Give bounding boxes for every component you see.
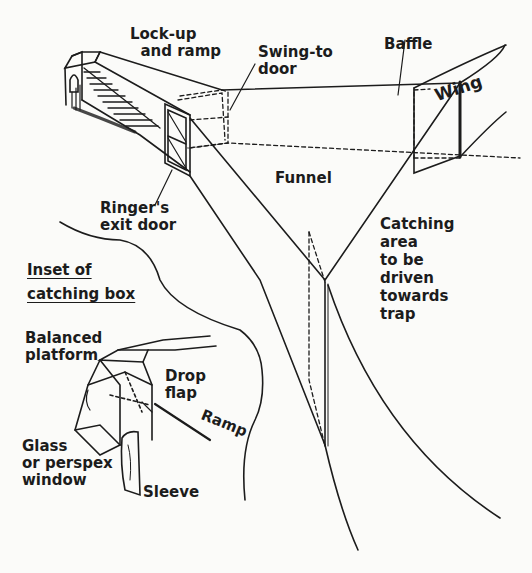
label-ringer-door: Ringer's exit door xyxy=(100,200,176,234)
label-swing-door: Swing-to door xyxy=(258,44,333,78)
label-drop-flap: Drop flap xyxy=(165,368,206,402)
label-funnel: Funnel xyxy=(275,170,332,187)
ringer-door xyxy=(165,104,190,176)
label-glass-window: Glass or perspex window xyxy=(22,438,113,489)
label-lockup: Lock-up and ramp xyxy=(130,26,221,60)
inset-title-line2: catching box xyxy=(27,286,135,303)
inset-title-line1: Inset of xyxy=(27,262,92,279)
trap-diagram: Lock-up and ramp Swing-to door Baffle Wi… xyxy=(0,0,532,573)
label-baffle: Baffle xyxy=(384,36,432,53)
label-balanced-platform: Balanced platform xyxy=(25,330,102,364)
label-sleeve: Sleeve xyxy=(143,484,199,501)
label-catching-area: Catching area to be driven towards trap xyxy=(380,215,454,323)
